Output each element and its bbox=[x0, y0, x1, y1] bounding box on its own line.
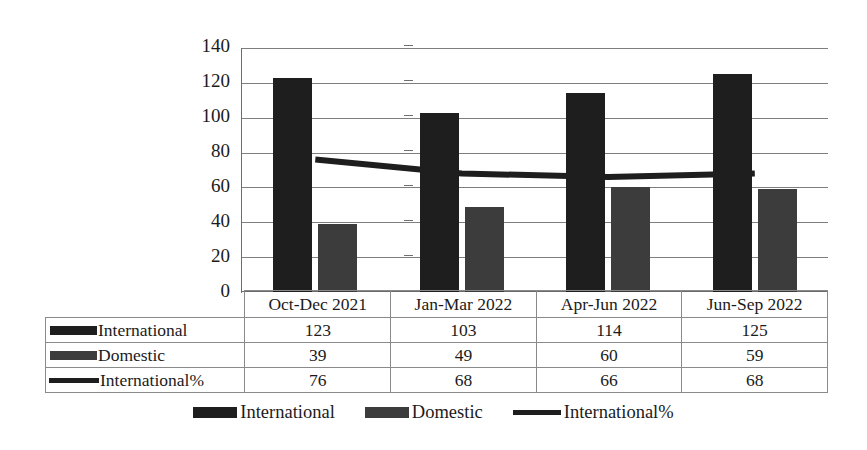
table-column-header: Apr-Jun 2022 bbox=[536, 291, 682, 318]
y-axis-tick-60: 60 bbox=[172, 176, 230, 195]
table-cell: 114 bbox=[536, 318, 682, 343]
y-axis-tick-100: 100 bbox=[172, 106, 230, 125]
y-axis-tick-140: 140 bbox=[172, 36, 230, 55]
table-cell: 60 bbox=[536, 343, 682, 368]
table-column-header: Jan-Mar 2022 bbox=[391, 291, 537, 318]
series-swatch-bar-icon bbox=[50, 326, 97, 335]
table-cell: 123 bbox=[245, 318, 391, 343]
y-axis: 140 120 100 80 60 40 20 0 bbox=[170, 36, 230, 304]
chart-legend: International Domestic International% bbox=[0, 402, 867, 422]
table-corner-cell bbox=[46, 291, 245, 318]
table-header-row: Oct-Dec 2021 Jan-Mar 2022 Apr-Jun 2022 J… bbox=[46, 291, 828, 318]
legend-label: International bbox=[240, 402, 335, 422]
legend-item-domestic: Domestic bbox=[365, 402, 483, 422]
legend-item-international-pct: International% bbox=[513, 402, 674, 422]
table-column-header: Jun-Sep 2022 bbox=[682, 291, 828, 318]
chart-figure: 140 120 100 80 60 40 20 0 bbox=[0, 0, 867, 450]
table-row-header-international-pct: International% bbox=[46, 368, 245, 393]
table-column-header: Oct-Dec 2021 bbox=[245, 291, 391, 318]
table-cell: 68 bbox=[682, 368, 828, 393]
table-cell: 49 bbox=[391, 343, 537, 368]
table-cell: 125 bbox=[682, 318, 828, 343]
y-axis-tick-20: 20 bbox=[172, 246, 230, 265]
table-cell: 39 bbox=[245, 343, 391, 368]
table-cell: 76 bbox=[245, 368, 391, 393]
table-row: Domestic 39 49 60 59 bbox=[46, 343, 828, 368]
table-cell: 59 bbox=[682, 343, 828, 368]
legend-label: International% bbox=[564, 402, 674, 422]
table-row-header-international: International bbox=[46, 318, 245, 343]
legend-swatch-line-icon bbox=[513, 410, 561, 415]
table-row: International 123 103 114 125 bbox=[46, 318, 828, 343]
table-row-header-domestic: Domestic bbox=[46, 343, 245, 368]
y-axis-tick-80: 80 bbox=[172, 141, 230, 160]
legend-swatch-bar-icon bbox=[365, 407, 409, 418]
legend-swatch-bar-icon bbox=[193, 407, 237, 418]
data-table: Oct-Dec 2021 Jan-Mar 2022 Apr-Jun 2022 J… bbox=[45, 290, 828, 393]
legend-label: Domestic bbox=[412, 402, 483, 422]
legend-item-international: International bbox=[193, 402, 335, 422]
table-cell: 68 bbox=[391, 368, 537, 393]
y-tick-mark bbox=[404, 45, 413, 46]
plot-area bbox=[242, 48, 828, 292]
y-axis-tick-120: 120 bbox=[172, 71, 230, 90]
table-row: International% 76 68 66 68 bbox=[46, 368, 828, 393]
y-axis-tick-40: 40 bbox=[172, 211, 230, 230]
table-row-label: International bbox=[98, 320, 187, 340]
series-swatch-line-icon bbox=[49, 378, 99, 383]
line-series-international-pct bbox=[242, 48, 828, 292]
table-cell: 66 bbox=[536, 368, 682, 393]
table-row-label: Domestic bbox=[98, 345, 165, 365]
table-row-label: International% bbox=[100, 370, 204, 390]
table-cell: 103 bbox=[391, 318, 537, 343]
series-swatch-bar-icon bbox=[50, 351, 97, 360]
